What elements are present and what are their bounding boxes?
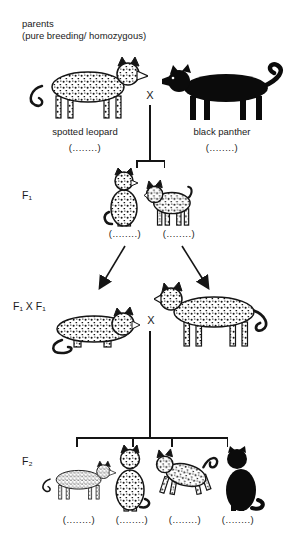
connector-line xyxy=(76,437,78,447)
f1xf1-crouching-leopard-icon xyxy=(48,300,140,358)
f1-sitting-leopard-icon xyxy=(102,168,142,228)
f2-genotype-blank-4: (........) xyxy=(207,514,269,525)
connector-line xyxy=(149,105,151,160)
parent-right-genotype-blank: (........) xyxy=(160,142,284,153)
f2-sitting-leopard-icon xyxy=(110,444,152,514)
connector-line xyxy=(136,160,165,162)
title-line-2: (pure breeding/ homozygous) xyxy=(22,30,272,42)
connector-line xyxy=(149,331,151,437)
f2-prancing-leopard-icon xyxy=(152,448,220,504)
f2-black-panther-sitting-icon xyxy=(218,446,266,514)
title-line-1: parents xyxy=(22,18,272,30)
connector-line xyxy=(136,160,138,168)
genetics-cross-diagram: parents (pure breeding/ homozygous) X xyxy=(0,0,290,559)
connector-line xyxy=(164,160,166,168)
f1-genotype-blank-1: (........) xyxy=(94,228,156,239)
f1-generation-label: F₁ xyxy=(22,189,32,201)
spotted-leopard-label: spotted leopard xyxy=(23,126,147,137)
f1xf1-label: F₁ X F₁ xyxy=(13,300,46,312)
black-panther-label: black panther xyxy=(160,126,284,137)
parents-cross-symbol: X xyxy=(143,89,157,101)
connector-line xyxy=(171,437,173,447)
connector-line xyxy=(76,437,228,439)
black-panther-parent-icon xyxy=(162,62,286,122)
f1-genotype-blank-2: (........) xyxy=(148,228,210,239)
f1-standing-leopard-icon xyxy=(144,180,194,228)
f1xf1-standing-leopard-icon xyxy=(154,282,274,348)
spotted-leopard-parent-icon xyxy=(26,56,148,122)
f2-standing-leopard-icon xyxy=(40,458,116,504)
f2-generation-label: F₂ xyxy=(22,455,33,467)
parent-left-genotype-blank: (........) xyxy=(23,142,147,153)
diagram-title: parents (pure breeding/ homozygous) xyxy=(22,18,272,41)
